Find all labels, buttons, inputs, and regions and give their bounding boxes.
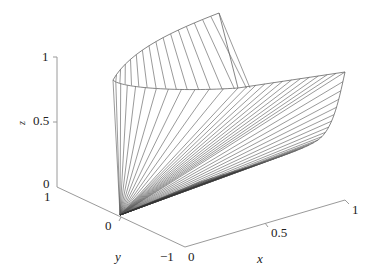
y-tick-label-0: 0 [105,219,112,232]
y-tick-label-1: 1 [44,190,51,203]
mesh-back-ray [178,30,198,90]
x-axis-title: x [257,252,263,265]
mesh-back-ray [120,69,121,83]
x-tick-05 [265,223,268,227]
y-axis-title: y [115,250,121,263]
surface-plot [0,0,374,278]
mesh-back-ray [219,13,250,88]
mesh-ray [120,87,247,215]
y-tick-label-m1: −1 [160,250,174,263]
mesh-ray [120,75,327,215]
y-tick-0 [119,217,121,221]
mesh-ray [120,76,318,215]
mesh-back-ray [171,34,188,90]
front-arc-edge [113,72,345,90]
x-tick-1 [345,200,349,204]
mesh-ray [120,83,274,215]
back-right-edge [219,13,238,88]
mesh-back-ray [156,42,166,89]
mesh-ray [120,84,265,215]
z-axis-title: z [17,121,27,125]
z-tick-label-05: 0.5 [33,114,49,127]
x-tick-label-0: 0 [188,250,195,263]
mesh-ray [120,77,309,215]
mesh-back-ray [194,23,222,89]
mesh-back-ray [142,50,147,87]
mesh-back-ray [186,26,210,89]
mesh-ray [120,81,283,215]
mesh-ray [120,99,339,215]
mesh-ray [120,73,336,215]
x-tick-label-05: 0.5 [271,226,287,239]
surface-mesh [113,13,345,215]
mesh-ray [120,82,343,215]
mesh-back-ray [131,59,132,85]
z-tick-label-1: 1 [42,50,49,63]
mesh-ray [120,84,121,215]
mesh-ray [120,115,334,215]
mesh-back-ray [149,46,156,88]
mesh-ray [120,87,136,216]
mesh-back-ray [136,55,139,87]
x-tick-label-1: 1 [352,203,359,216]
